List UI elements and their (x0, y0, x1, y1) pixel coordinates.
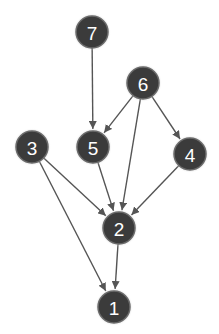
node-7: 7 (73, 13, 111, 51)
node-4: 4 (171, 135, 209, 173)
edge-6-to-2 (122, 99, 140, 210)
node-label: 6 (138, 74, 149, 95)
node-label: 5 (88, 138, 99, 159)
node-3: 3 (13, 128, 51, 166)
node-label: 2 (114, 219, 125, 240)
node-6: 6 (124, 64, 162, 102)
edge-6-to-5 (104, 96, 133, 133)
node-label: 4 (185, 145, 196, 166)
node-1: 1 (95, 288, 133, 326)
node-label: 1 (109, 298, 120, 319)
nodes-layer: 7653421 (13, 13, 209, 326)
edge-4-to-2 (131, 166, 178, 215)
node-5: 5 (74, 128, 112, 166)
edge-7-to-5 (92, 48, 93, 129)
node-label: 7 (87, 23, 98, 44)
edge-5-to-2 (98, 162, 114, 211)
node-label: 3 (27, 138, 38, 159)
node-2: 2 (100, 209, 138, 247)
edge-6-to-4 (152, 96, 180, 139)
edge-3-to-1 (39, 161, 105, 291)
edge-2-to-1 (115, 244, 118, 289)
directed-graph: 7653421 (0, 0, 219, 334)
